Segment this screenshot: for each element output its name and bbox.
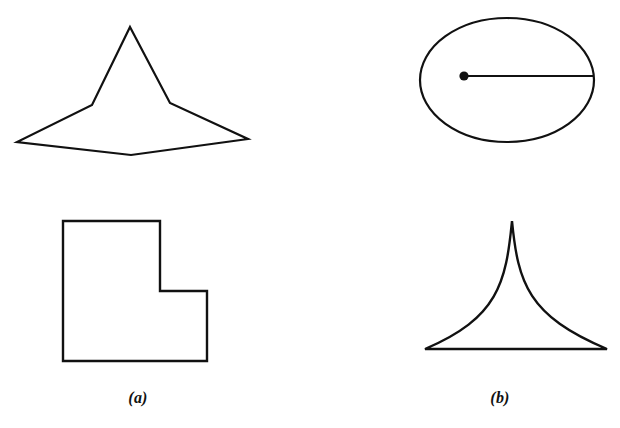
center-dot	[459, 71, 468, 80]
panel-a-group	[17, 27, 248, 361]
panel-b-group	[420, 18, 607, 349]
figure-canvas	[0, 0, 620, 428]
l-shaped-polygon	[63, 221, 207, 361]
caption-panel-b: (b)	[450, 389, 550, 407]
caption-panel-a: (a)	[88, 389, 188, 407]
ellipse-outline	[420, 18, 594, 142]
figure-container: (a) (b)	[0, 0, 620, 428]
concave-star-polygon	[17, 27, 248, 155]
cusp-spike-shape	[425, 221, 607, 349]
